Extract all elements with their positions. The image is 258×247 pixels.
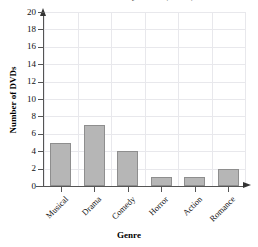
x-tick-labels: MusicalDramaComedyHorrorActionRomance — [0, 0, 258, 247]
x-axis-tick — [61, 187, 62, 192]
x-axis-title: Genre — [0, 230, 258, 240]
x-axis-tick — [128, 187, 129, 192]
y-axis-title: Number of DVDs — [8, 45, 18, 155]
x-axis-tick — [228, 187, 229, 192]
bar-chart: DVD Collection by Genre (DVDs) 024681012… — [0, 0, 258, 247]
x-axis-tick — [161, 187, 162, 192]
x-axis-tick — [195, 187, 196, 192]
x-axis-tick — [94, 187, 95, 192]
